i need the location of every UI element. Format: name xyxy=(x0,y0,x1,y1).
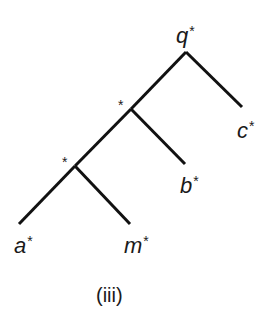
leaf-a-marker: * xyxy=(27,233,32,249)
edge-node2-to-m xyxy=(75,166,130,224)
leaf-b-marker: * xyxy=(193,173,198,189)
internal-node-1-marker: * xyxy=(118,98,123,112)
tree-diagram xyxy=(0,0,274,321)
leaf-c-symbol: c xyxy=(237,118,248,143)
figure-caption: (iii) xyxy=(96,284,123,306)
edge-node1-to-node2 xyxy=(75,109,131,166)
leaf-b-label: b* xyxy=(180,170,199,197)
leaf-m-marker: * xyxy=(143,233,148,249)
edge-root-to-node1 xyxy=(131,52,186,109)
root-symbol: q xyxy=(176,23,188,48)
leaf-a-label: a* xyxy=(14,230,33,257)
leaf-a-symbol: a xyxy=(14,233,26,258)
leaf-m-label: m* xyxy=(124,230,149,257)
root-label: q* xyxy=(176,20,195,47)
node1-star: * xyxy=(118,97,123,113)
leaf-c-label: c* xyxy=(237,115,254,142)
leaf-b-symbol: b xyxy=(180,173,192,198)
internal-node-2-marker: * xyxy=(62,155,67,169)
leaf-m-symbol: m xyxy=(124,233,142,258)
node2-star: * xyxy=(62,154,67,170)
edge-root-to-c xyxy=(186,52,242,107)
edge-node2-to-a xyxy=(19,166,75,224)
root-marker: * xyxy=(189,23,194,39)
leaf-c-marker: * xyxy=(249,118,254,134)
edge-node1-to-b xyxy=(131,109,185,164)
